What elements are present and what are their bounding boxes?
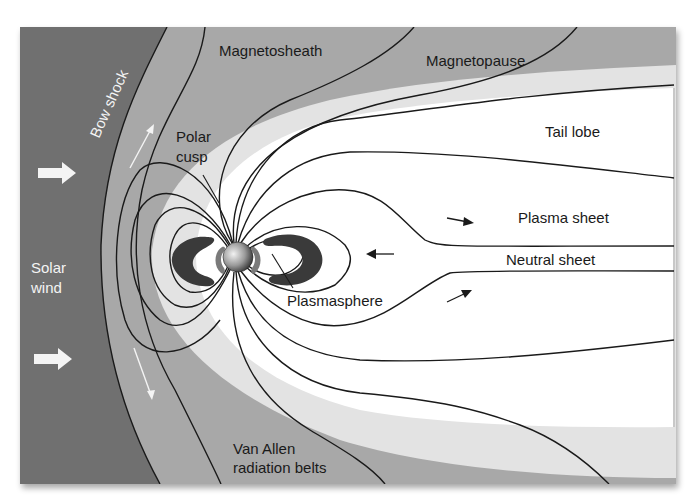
magnetosheath-label: Magnetosheath bbox=[219, 42, 322, 59]
plasmasphere-label: Plasmasphere bbox=[287, 292, 383, 309]
polar-cusp-label-line2: cusp bbox=[176, 148, 208, 165]
solar-wind-label-line1: Solar bbox=[31, 259, 66, 276]
magnetosphere-diagram: Magnetosheath Magnetopause Bow shock Pol… bbox=[0, 0, 694, 501]
polar-cusp-label-line1: Polar bbox=[176, 128, 211, 145]
van-allen-label-line1: Van Allen bbox=[233, 440, 295, 457]
solar-wind-label-line2: wind bbox=[30, 279, 62, 296]
neutral-sheet-label: Neutral sheet bbox=[506, 251, 596, 268]
van-allen-label-line2: radiation belts bbox=[233, 459, 326, 476]
earth-sphere bbox=[223, 242, 253, 272]
tail-lobe-label: Tail lobe bbox=[545, 123, 600, 140]
magnetopause-label: Magnetopause bbox=[426, 52, 525, 69]
plasma-sheet-label: Plasma sheet bbox=[518, 209, 610, 226]
